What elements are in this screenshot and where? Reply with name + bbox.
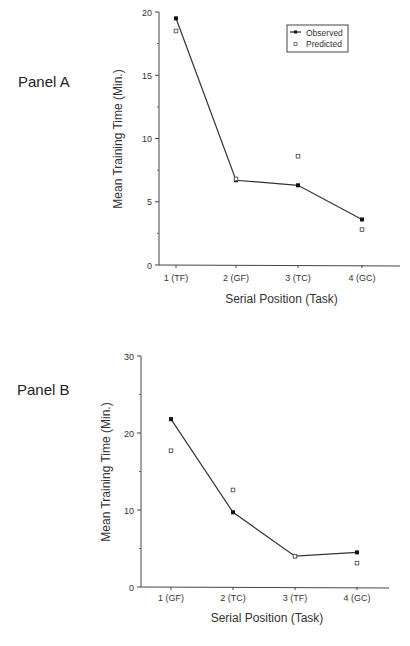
panel-a-y-axis-title: Mean Training Time (Min.) — [111, 69, 125, 208]
panel-b-predicted-marker — [355, 561, 359, 565]
panel-b-observed-marker — [169, 417, 173, 421]
panel-b-y-tick-label: 10 — [124, 506, 134, 516]
panel-a-y-tick-label: 15 — [142, 71, 152, 81]
panel-a-x-tick-label: 3 (TC) — [285, 273, 311, 283]
panel-a-predicted-marker — [174, 29, 178, 33]
panel-b-x-tick-label: 1 (GF) — [158, 593, 184, 603]
panel-a-observed-marker — [360, 217, 364, 221]
panel-b-x-axis — [141, 587, 389, 588]
panel-a-predicted-marker — [296, 154, 300, 158]
panel-a-predicted-marker — [234, 177, 238, 181]
panel-b-y-tick-label: 0 — [129, 583, 134, 593]
panel-a-predicted-marker — [360, 228, 364, 232]
panel-b-observed-marker — [231, 510, 235, 514]
panel-a-observed-marker — [296, 183, 300, 187]
panel-b-observed-line — [171, 419, 357, 556]
panel-a-x-axis — [159, 265, 400, 266]
panel-a-x-tick-label: 4 (GC) — [349, 273, 376, 283]
legend-predicted-label: Predicted — [306, 39, 342, 49]
panel-b-y-tick-label: 20 — [124, 429, 134, 439]
panel-a-y-tick-label: 5 — [147, 197, 152, 207]
panel-b-x-tick-label: 3 (TF) — [283, 593, 308, 603]
panel-b-y-tick-label: 30 — [124, 352, 134, 362]
chart-canvas: 051015201 (TF)2 (GF)3 (TC)4 (GC)Serial P… — [0, 0, 410, 646]
panel-b-predicted-marker — [169, 449, 173, 453]
legend-observed-marker-icon — [294, 31, 297, 34]
legend-predicted-marker-icon — [294, 43, 297, 46]
panel-b-x-tick-label: 2 (TC) — [220, 593, 246, 603]
panel-b-observed-marker — [355, 550, 359, 554]
panel-a-x-tick-label: 2 (GF) — [223, 273, 249, 283]
panel-a-y-tick-label: 20 — [142, 8, 152, 18]
legend-observed-label: Observed — [306, 28, 343, 38]
panel-a-observed-marker — [174, 16, 178, 20]
panel-b-x-axis-title: Serial Position (Task) — [211, 611, 324, 625]
panel-b-y-axis-title: Mean Training Time (Min.) — [99, 402, 113, 541]
panel-a-x-axis-title: Serial Position (Task) — [225, 292, 338, 306]
panel-a-y-tick-label: 10 — [142, 134, 152, 144]
panel-a-x-tick-label: 1 (TF) — [164, 273, 189, 283]
panel-a-y-tick-label: 0 — [147, 261, 152, 271]
panel-b-predicted-marker — [293, 554, 297, 558]
panel-b-x-tick-label: 4 (GC) — [344, 593, 371, 603]
panel-b-predicted-marker — [231, 488, 235, 492]
